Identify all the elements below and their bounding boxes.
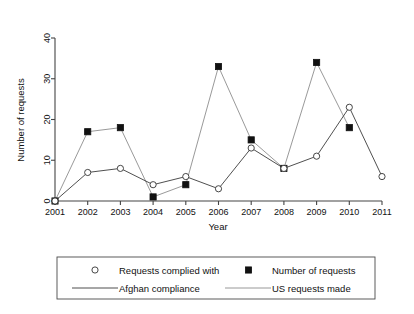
data-point-square [215,63,221,69]
data-point-circle [150,182,156,188]
data-point-square [117,125,123,131]
legend-label-requests-complied-with: Requests complied with [119,265,219,276]
data-point-circle [117,165,123,171]
x-tick-label: 2007 [241,207,261,217]
legend-circle-marker-icon [92,267,98,273]
y-tick-label: 10 [42,155,52,165]
y-tick-label: 20 [42,114,52,124]
y-tick-label: 30 [42,74,52,84]
line-chart: 010203040 200120022003200420052006200720… [0,0,414,314]
data-point-square [85,129,91,135]
data-point-circle [281,165,287,171]
data-point-circle [52,198,58,204]
x-axis-title: Year [208,221,227,232]
legend-square-marker-icon [245,267,251,273]
data-point-circle [346,104,352,110]
data-point-circle [248,145,254,151]
x-tick-label: 2005 [176,207,196,217]
legend-label-afghan-compliance: Afghan compliance [119,283,200,294]
x-axis-tick-labels: 2001200220032004200520062007200820092010… [45,207,392,217]
data-point-square [314,59,320,65]
y-tick-label: 40 [42,33,52,43]
data-point-square [183,182,189,188]
y-axis-title: Number of requests [15,78,26,162]
legend-label-number-of-requests: Number of requests [272,265,356,276]
data-point-square [248,137,254,143]
legend-label-us-requests-made: US requests made [272,283,351,294]
x-tick-label: 2008 [274,207,294,217]
data-point-circle [379,173,385,179]
x-tick-label: 2011 [372,207,391,217]
data-point-circle [215,186,221,192]
data-point-circle [85,169,91,175]
x-tick-label: 2004 [143,207,163,217]
data-point-circle [314,153,320,159]
x-tick-label: 2009 [307,207,327,217]
x-tick-label: 2003 [110,207,130,217]
y-tick-label: 0 [42,198,52,203]
x-tick-label: 2001 [45,207,65,217]
x-tick-label: 2010 [339,207,359,217]
data-point-square [150,194,156,200]
plot-area [55,38,382,201]
data-point-circle [183,173,189,179]
x-tick-label: 2006 [208,207,228,217]
chart-legend: Requests complied with Number of request… [57,257,375,299]
chart-figure: 010203040 200120022003200420052006200720… [0,0,414,314]
x-tick-label: 2002 [78,207,98,217]
data-point-square [346,125,352,131]
